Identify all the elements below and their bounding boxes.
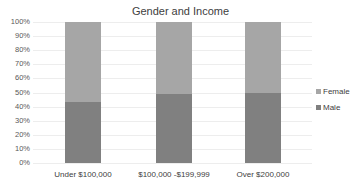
legend-label-male: Male <box>323 103 340 112</box>
bar-segment-male <box>245 93 281 164</box>
x-tick-label: Under $100,000 <box>38 170 128 179</box>
y-tick-label: 70% <box>0 59 30 68</box>
male-swatch-icon <box>316 105 321 110</box>
y-tick-label: 40% <box>0 102 30 111</box>
y-tick-label: 100% <box>0 17 30 26</box>
chart-title: Gender and Income <box>0 5 361 17</box>
legend-item-male: Male <box>316 103 340 112</box>
bar-segment-female <box>245 22 281 93</box>
y-tick-label: 10% <box>0 144 30 153</box>
bar-segment-male <box>65 102 101 163</box>
bar-stack <box>245 22 281 163</box>
legend-label-female: Female <box>323 87 350 96</box>
y-tick-label: 20% <box>0 130 30 139</box>
y-tick-label: 0% <box>0 158 30 167</box>
y-tick-label: 60% <box>0 73 30 82</box>
bar-segment-female <box>156 22 192 94</box>
y-tick-label: 80% <box>0 45 30 54</box>
y-tick-label: 30% <box>0 116 30 125</box>
bar-segment-female <box>65 22 101 102</box>
y-tick-label: 90% <box>0 31 30 40</box>
chart: Gender and Income 0%10%20%30%40%50%60%70… <box>0 0 361 189</box>
female-swatch-icon <box>316 89 321 94</box>
y-tick-label: 50% <box>0 88 30 97</box>
gridline <box>33 163 312 164</box>
legend-item-female: Female <box>316 87 350 96</box>
x-tick-label: $100,000 -$199,999 <box>129 170 219 179</box>
bar-stack <box>156 22 192 163</box>
plot-area <box>33 22 312 163</box>
bar-stack <box>65 22 101 163</box>
x-tick-label: Over $200,000 <box>218 170 308 179</box>
bar-segment-male <box>156 94 192 163</box>
